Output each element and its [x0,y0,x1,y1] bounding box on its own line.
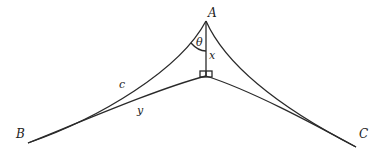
label-side-c: c [119,78,125,91]
spherical-triangle-diagram: A θ x c y B C [0,0,385,155]
label-vertex-c: C [359,127,368,141]
label-angle-theta: θ [196,36,203,49]
curve-ab [28,21,206,143]
label-altitude-x: x [209,49,216,62]
label-vertex-b: B [15,127,25,141]
label-segment-y: y [136,104,144,117]
curve-foot-c [206,76,356,147]
label-vertex-a: A [207,6,217,20]
